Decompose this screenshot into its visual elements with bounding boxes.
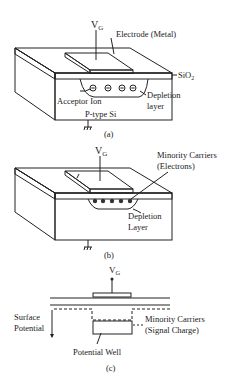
minority-label-1: Minority Carriers bbox=[145, 314, 205, 324]
surface-label-1: Surface bbox=[14, 312, 40, 322]
ground-icon bbox=[84, 247, 92, 250]
electrode bbox=[65, 171, 133, 189]
depletion-label-1: Depletion bbox=[128, 211, 162, 221]
substrate-label: P-type Si bbox=[85, 109, 117, 119]
minority-label-1: Minority Carriers bbox=[157, 150, 217, 160]
panel-c: VG Surface Potential Minority Carriers (… bbox=[14, 265, 205, 373]
panel-a: VG Electrode (Metal) SiO2 Acceptor Ion D… bbox=[15, 19, 194, 139]
mos-capacitor-diagram: VG Electrode (Metal) SiO2 Acceptor Ion D… bbox=[0, 0, 236, 386]
minority-label-2: (Electrons) bbox=[157, 161, 195, 171]
depletion-label-1: Depletion bbox=[147, 90, 181, 100]
substrate-left-face bbox=[15, 168, 55, 240]
panel-b: VG Minority Carriers (Electrons) Depleti… bbox=[15, 145, 217, 260]
well-label: Potential Well bbox=[73, 347, 122, 357]
ground-icon bbox=[84, 127, 92, 130]
oxide-label: SiO2 bbox=[178, 70, 194, 81]
depletion-label-2: layer bbox=[147, 101, 164, 111]
oxide-layer bbox=[55, 193, 172, 199]
caption-a: (a) bbox=[104, 129, 114, 139]
caption-c: (c) bbox=[106, 363, 116, 373]
depletion-label-2: Layer bbox=[128, 222, 148, 232]
substrate-left-face bbox=[15, 48, 55, 120]
caption-b: (b) bbox=[104, 250, 114, 260]
surface-label-2: Potential bbox=[14, 323, 45, 333]
oxide-left-edge bbox=[15, 168, 55, 199]
electrode bbox=[65, 53, 133, 70]
electrode-label: Electrode (Metal) bbox=[116, 29, 176, 39]
gate-voltage-label: VG bbox=[91, 19, 103, 32]
acceptor-ions bbox=[90, 85, 136, 91]
gate-voltage-label: VG bbox=[95, 145, 107, 158]
arrow-down-icon bbox=[50, 334, 54, 338]
acceptor-label: Acceptor Ion bbox=[57, 96, 102, 106]
minority-label-2: (Signal Charge) bbox=[145, 325, 199, 335]
oxide-left-edge bbox=[15, 48, 55, 79]
electrode bbox=[93, 293, 131, 297]
signal-charge bbox=[93, 321, 132, 334]
gate-voltage-label: VG bbox=[109, 265, 121, 276]
